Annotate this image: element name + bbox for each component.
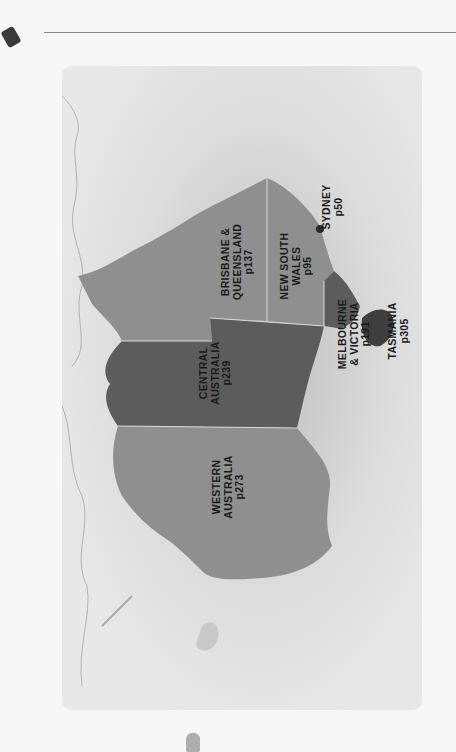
label-central-australia[interactable]: CENTRAL AUSTRALIA p239 — [198, 341, 233, 404]
page-header-rule — [44, 32, 456, 33]
page-binding-mark — [0, 26, 21, 49]
label-brisbane-queensland[interactable]: BRISBANE & QUEENSLAND p137 — [220, 224, 255, 301]
label-new-south-wales[interactable]: NEW SOUTH WALES p95 — [279, 233, 314, 300]
page-smudge — [186, 733, 200, 752]
australia-map-graphic — [62, 66, 422, 710]
map-panel: BRISBANE & QUEENSLAND p137 NEW SOUTH WAL… — [62, 66, 422, 710]
label-melbourne-victoria[interactable]: MELBOURNE & VICTORIA p191 — [337, 299, 372, 369]
label-tasmania[interactable]: TASMANIA p305 — [387, 302, 410, 359]
label-western-australia[interactable]: WESTERN AUSTRALIA p273 — [211, 455, 246, 518]
label-sydney[interactable]: SYDNEY p50 — [321, 185, 344, 230]
